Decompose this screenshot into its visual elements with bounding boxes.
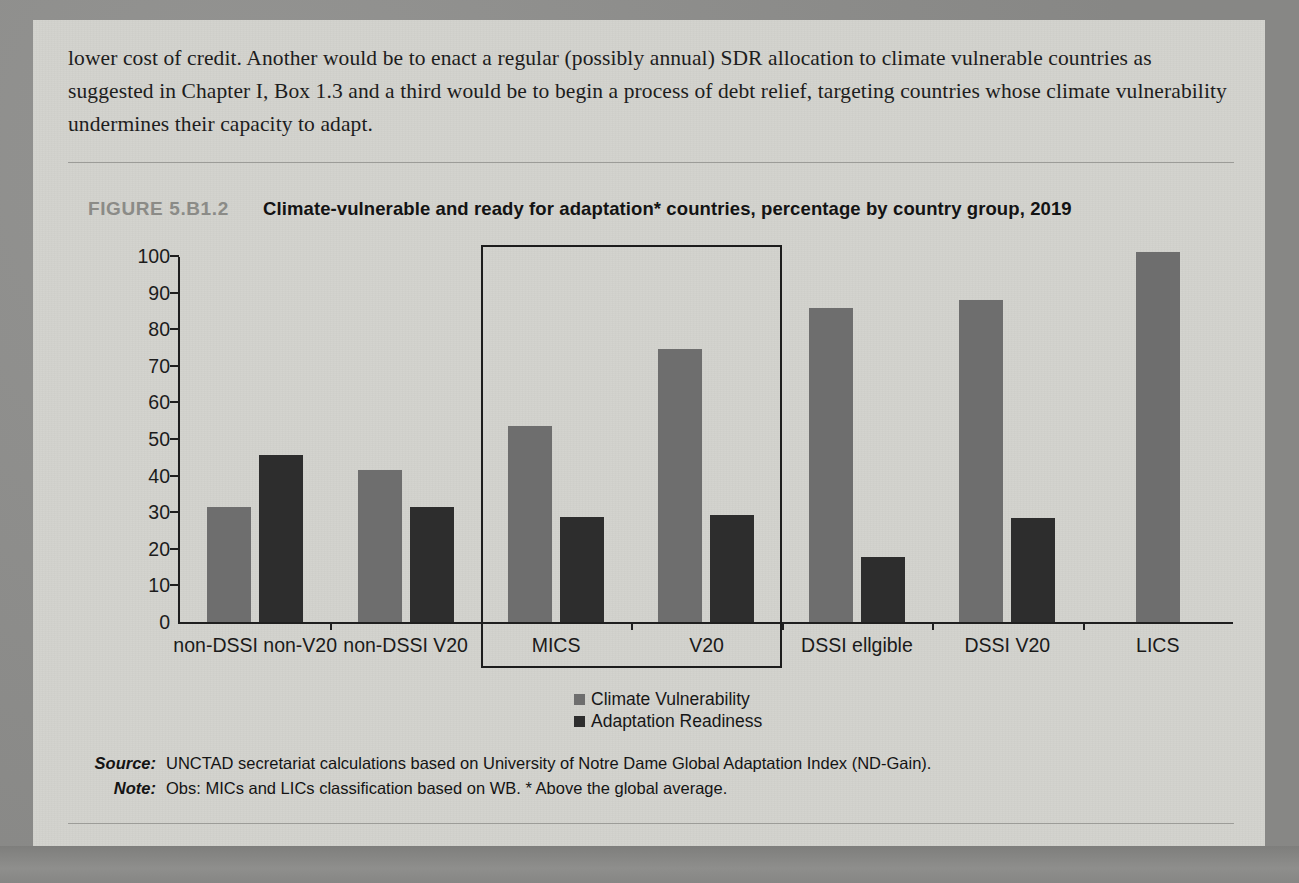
bar-group bbox=[631, 247, 781, 622]
y-axis-tick-mark bbox=[170, 475, 179, 477]
source-row: Source: UNCTAD secretariat calculations … bbox=[88, 751, 1228, 776]
x-axis-label-non-dssi-v20: non-DSSI V20 bbox=[343, 634, 468, 657]
bar-climate-vulnerability bbox=[207, 507, 251, 622]
y-axis-tick-label: 60 bbox=[108, 391, 170, 414]
scanned-page-background: lower cost of credit. Another would be t… bbox=[0, 0, 1299, 883]
x-axis-label-lics: LICS bbox=[1136, 634, 1179, 657]
bar-group bbox=[932, 247, 1082, 622]
x-axis-tick-mark bbox=[1083, 622, 1085, 630]
bar-climate-vulnerability bbox=[809, 308, 853, 622]
bar-adaptation-readiness bbox=[560, 517, 604, 622]
y-axis-tick-mark bbox=[170, 401, 179, 403]
bar-adaptation-readiness bbox=[1011, 518, 1055, 622]
y-axis-tick-mark bbox=[170, 328, 179, 330]
bar-group bbox=[180, 247, 330, 622]
bar-adaptation-readiness bbox=[259, 455, 303, 622]
x-axis-tick-mark bbox=[481, 622, 483, 630]
body-paragraph-text: lower cost of credit. Another would be t… bbox=[68, 42, 1233, 141]
x-axis-label-mics: MICS bbox=[532, 634, 581, 657]
bar-adaptation-readiness bbox=[410, 507, 454, 622]
y-axis-tick-mark bbox=[170, 511, 179, 513]
legend-item-adaptation-readiness: Adaptation Readiness bbox=[574, 710, 762, 732]
legend-label-climate-vulnerability: Climate Vulnerability bbox=[591, 688, 750, 710]
horizontal-rule-bottom bbox=[68, 823, 1234, 824]
y-axis-tick-label: 90 bbox=[108, 281, 170, 304]
x-axis-tick-mark bbox=[330, 622, 332, 630]
x-axis-tick-mark bbox=[932, 622, 934, 630]
legend-swatch-icon-climate-vulnerability bbox=[574, 694, 585, 705]
x-axis-tick-mark bbox=[631, 622, 633, 630]
x-axis-label-dssi-v20: DSSI V20 bbox=[965, 634, 1051, 657]
y-axis-labels: 0102030405060708090100 bbox=[108, 248, 170, 622]
note-row: Note: Obs: MICs and LICs classification … bbox=[88, 776, 1228, 801]
bar-climate-vulnerability bbox=[658, 349, 702, 622]
y-axis-tick-mark bbox=[170, 584, 179, 586]
source-text: UNCTAD secretariat calculations based on… bbox=[166, 751, 1228, 776]
x-axis-tick-mark bbox=[782, 622, 784, 630]
x-axis-label-dssi-ellgible: DSSI ellgible bbox=[801, 634, 913, 657]
y-axis-tick-label: 0 bbox=[108, 611, 170, 634]
y-axis-tick-mark bbox=[170, 438, 179, 440]
bar-group bbox=[481, 247, 631, 622]
bar-climate-vulnerability bbox=[508, 426, 552, 622]
y-axis-tick-label: 50 bbox=[108, 428, 170, 451]
y-axis-tick-label: 100 bbox=[108, 245, 170, 268]
bar-adaptation-readiness bbox=[861, 557, 905, 622]
y-axis-tick-label: 20 bbox=[108, 537, 170, 560]
document-sheet: lower cost of credit. Another would be t… bbox=[33, 20, 1265, 846]
chart-legend: Climate Vulnerability Adaptation Readine… bbox=[574, 688, 762, 732]
y-axis-tick-mark bbox=[170, 292, 179, 294]
bar-climate-vulnerability bbox=[1136, 252, 1180, 622]
legend-item-climate-vulnerability: Climate Vulnerability bbox=[574, 688, 762, 710]
figure-number: FIGURE 5.B1.2 bbox=[88, 198, 263, 220]
legend-label-adaptation-readiness: Adaptation Readiness bbox=[591, 710, 762, 732]
figure-title: Climate-vulnerable and ready for adaptat… bbox=[263, 198, 1072, 220]
figure-notes: Source: UNCTAD secretariat calculations … bbox=[88, 751, 1228, 801]
bar-chart: 0102030405060708090100 non-DSSI non-V20n… bbox=[108, 248, 1238, 668]
y-axis-tick-label: 40 bbox=[108, 464, 170, 487]
bar-group bbox=[1083, 247, 1233, 622]
source-label: Source: bbox=[88, 751, 166, 776]
bar-adaptation-readiness bbox=[710, 515, 754, 622]
x-axis-label-v20: V20 bbox=[689, 634, 724, 657]
note-text: Obs: MICs and LICs classification based … bbox=[166, 776, 1228, 801]
note-label: Note: bbox=[88, 776, 166, 801]
scan-edge-shadow bbox=[0, 846, 1299, 883]
body-paragraph: lower cost of credit. Another would be t… bbox=[68, 42, 1233, 141]
bar-group bbox=[782, 247, 932, 622]
y-axis-tick-label: 80 bbox=[108, 318, 170, 341]
horizontal-rule-top bbox=[68, 162, 1234, 163]
plot-area bbox=[180, 248, 1233, 623]
y-axis-tick-label: 70 bbox=[108, 354, 170, 377]
bar-climate-vulnerability bbox=[959, 300, 1003, 622]
y-axis-tick-mark bbox=[170, 365, 179, 367]
figure-header: FIGURE 5.B1.2 Climate-vulnerable and rea… bbox=[88, 198, 1072, 220]
y-axis-tick-mark bbox=[170, 255, 179, 257]
y-axis-tick-mark bbox=[170, 548, 179, 550]
y-axis-tick-label: 30 bbox=[108, 501, 170, 524]
bar-climate-vulnerability bbox=[358, 470, 402, 622]
x-axis-label-non-dssi-non-v20: non-DSSI non-V20 bbox=[173, 634, 337, 657]
bar-group bbox=[330, 247, 480, 622]
y-axis-tick-label: 10 bbox=[108, 574, 170, 597]
legend-swatch-icon-adaptation-readiness bbox=[574, 716, 585, 727]
